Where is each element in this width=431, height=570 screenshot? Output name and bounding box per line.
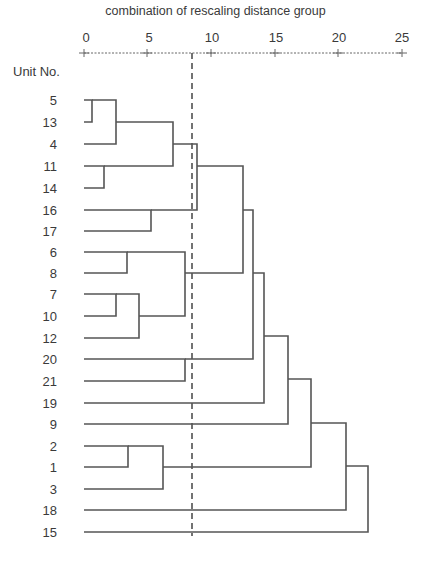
dendrogram [0,0,431,570]
dendrogram-branches [84,100,368,532]
distance-axis [79,49,407,57]
